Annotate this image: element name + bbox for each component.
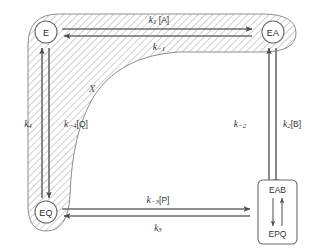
rate-label-k3: k3 [154, 223, 162, 234]
rate-label-km3P: k−3[P] [147, 195, 170, 206]
rate-label-km4Q: k−4[Q] [64, 119, 88, 130]
node-ea[interactable]: EA [262, 21, 284, 43]
node-e[interactable]: E [35, 21, 57, 43]
rate-label-km2: k−2 [234, 119, 247, 130]
node-eq[interactable]: EQ [35, 201, 57, 223]
rate-label-k2B: k2[B] [283, 119, 301, 130]
edge-pair-right [269, 48, 276, 185]
region-label-x: X [88, 83, 96, 94]
reaction-mechanism-diagram: X k1 [A] k−1 k−2 k2[B] [0, 0, 311, 249]
edge-pair-bottom [62, 209, 250, 216]
complex-box[interactable]: EAB EPQ [258, 180, 297, 244]
diagram-canvas: X k1 [A] k−1 k−2 k2[B] [0, 0, 311, 249]
complex-box-top-label: EAB [269, 185, 286, 195]
rate-label-k1A: k1 [A] [149, 15, 169, 26]
node-e-label: E [43, 28, 49, 38]
complex-box-bottom-label: EPQ [269, 229, 287, 239]
node-ea-label: EA [267, 28, 279, 38]
node-eq-label: EQ [39, 208, 52, 218]
